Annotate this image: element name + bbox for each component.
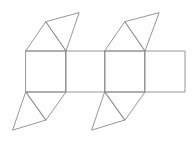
triangle-face-top-3-inner [105,22,145,51]
triangle-face-bottom-3-outer [92,92,125,130]
triangle-face-bottom-1-outer [13,92,46,130]
square-face-square-1 [26,51,66,92]
net-faces [13,13,185,130]
triangle-face-top-1-outer [46,13,79,51]
triangle-face-top-1-inner [26,22,66,51]
triangle-face-top-3-outer [125,13,159,51]
square-face-square-3 [105,51,145,92]
polyhedron-net-diagram [0,0,193,142]
triangle-face-bottom-1-inner [26,92,66,120]
square-face-square-4 [145,51,185,92]
square-face-square-2 [66,51,105,92]
triangle-face-bottom-3-inner [105,92,145,120]
